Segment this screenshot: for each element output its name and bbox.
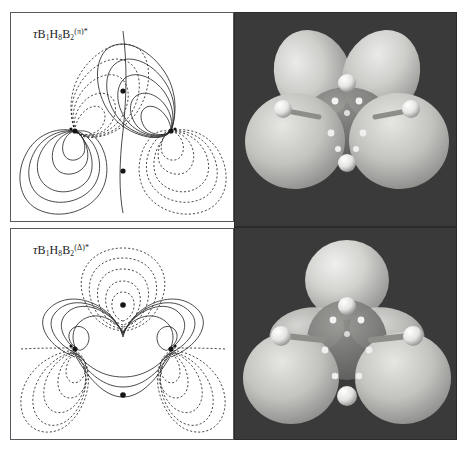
composite-plate: τB1H8B2(π)* <box>10 12 457 440</box>
nucleus-right-aux-2 <box>173 344 176 347</box>
contour-panel-pi: τB1H8B2(π)* <box>10 12 234 222</box>
nucleus-top-2 <box>120 302 126 308</box>
orbital-label-pi: τB1H8B2(π)* <box>33 27 88 42</box>
label-h: H <box>50 27 59 41</box>
delta-node-lines <box>21 348 225 349</box>
contour-svg-pi <box>11 13 234 222</box>
contour-panel-delta: τB1H8B2(Δ)* <box>10 228 234 440</box>
label2-h: H <box>50 243 59 257</box>
nucleus-left-2 <box>72 346 77 351</box>
pi-right-solid-lobes <box>97 44 175 137</box>
label2-superscript: (Δ)* <box>74 243 89 252</box>
contour-svg-delta <box>11 229 234 440</box>
nucleus-top <box>120 88 125 93</box>
delta-right-dashed-fan <box>157 351 225 433</box>
label2-b1: B <box>38 243 46 257</box>
nucleus-bottom-2 <box>120 392 126 398</box>
label-b1: B <box>38 27 46 41</box>
render-panel-delta <box>234 227 457 440</box>
nucleus-right-aux <box>173 127 176 130</box>
nucleus-right <box>168 128 173 133</box>
pi-right-dashed-lobes <box>139 130 226 214</box>
figure-plate: τB1H8B2(π)* <box>0 0 468 452</box>
orbital-label-delta: τB1H8B2(Δ)* <box>33 243 89 258</box>
label-superscript: (π)* <box>74 27 88 36</box>
pi-center-separatrix <box>120 31 126 213</box>
nucleus-bottom <box>120 168 125 173</box>
render-svg-delta <box>235 228 457 440</box>
nucleus-left-aux <box>69 127 72 130</box>
lobe-lower-left-2 <box>243 332 339 424</box>
render-panel-pi <box>234 12 457 227</box>
nucleus-right-2 <box>168 346 173 351</box>
delta-top-dashed-fan <box>81 248 165 331</box>
render-svg-pi <box>235 13 457 227</box>
nucleus-left <box>72 128 77 133</box>
nucleus-left-aux-2 <box>69 344 72 347</box>
delta-left-dashed-fan <box>21 351 89 433</box>
pi-left-solid-lobes <box>20 130 107 214</box>
lobe-lower-right-2 <box>355 332 451 424</box>
pi-left-dashed-lobes <box>71 44 149 137</box>
